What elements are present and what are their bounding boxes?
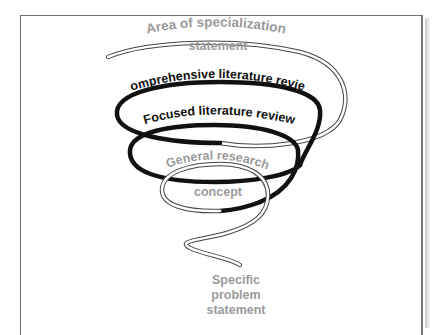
label-area-statement: statement xyxy=(188,39,248,53)
label-area-of-specialization: Area of specialization xyxy=(145,14,288,36)
label-concept: concept xyxy=(194,185,243,199)
spiral-tail xyxy=(204,235,240,265)
label-problem: problem xyxy=(211,288,260,302)
label-statement: statement xyxy=(206,303,266,317)
label-specific: Specific xyxy=(212,273,260,287)
